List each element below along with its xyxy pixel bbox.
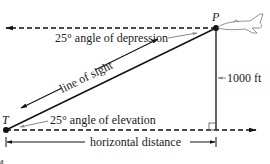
horizontal-distance-label: horizontal distance [90, 135, 181, 149]
point-t [3, 127, 9, 133]
depression-angle-label: 25° angle of depression [55, 31, 168, 45]
height-label: 1000 ft [227, 71, 262, 85]
elevation-angle-label: 25° angle of elevation [50, 113, 156, 127]
line-of-sight-label: line of sight [57, 58, 115, 96]
diagram-canvas: line of sight horizontal distance 25° an… [0, 0, 270, 164]
depression-pointer [168, 33, 197, 38]
corner-mark: a [0, 157, 4, 164]
line-of-sight-arrow-down [21, 88, 62, 108]
point-t-label: T [2, 113, 10, 127]
right-angle-marker [209, 123, 216, 130]
angle-diagram: line of sight horizontal distance 25° an… [0, 0, 270, 164]
airplane-icon [218, 14, 263, 33]
point-p-label: P [211, 10, 220, 24]
